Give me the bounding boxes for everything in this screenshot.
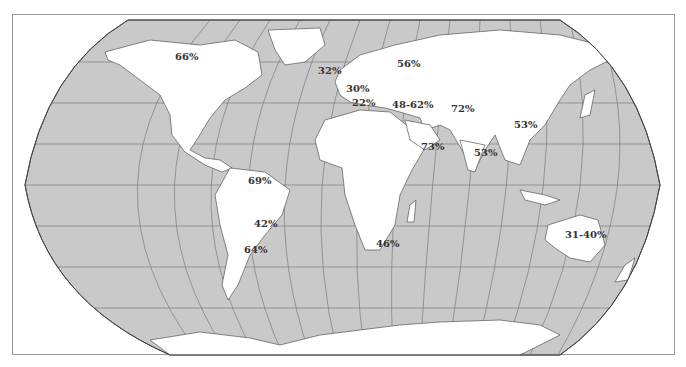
label-east-asia: 53% bbox=[514, 120, 537, 130]
label-southern-africa: 46% bbox=[376, 239, 399, 249]
world-map bbox=[0, 0, 686, 367]
label-southern-europe: 22% bbox=[352, 98, 375, 108]
label-united-kingdom: 32% bbox=[318, 66, 341, 76]
label-western-europe: 30% bbox=[346, 84, 369, 94]
label-arabian-peninsula: 73% bbox=[421, 142, 444, 152]
label-southern-cone: 64% bbox=[244, 245, 267, 255]
label-central-asia: 72% bbox=[451, 104, 474, 114]
label-south-asia: 53% bbox=[474, 148, 497, 158]
label-northern-europe: 56% bbox=[397, 59, 420, 69]
label-north-america: 66% bbox=[175, 52, 198, 62]
label-brazil-south: 42% bbox=[254, 219, 277, 229]
label-eastern-mediterranean: 48-62% bbox=[392, 100, 433, 110]
label-northern-south-america: 69% bbox=[248, 176, 271, 186]
label-australia: 31-40% bbox=[565, 230, 606, 240]
